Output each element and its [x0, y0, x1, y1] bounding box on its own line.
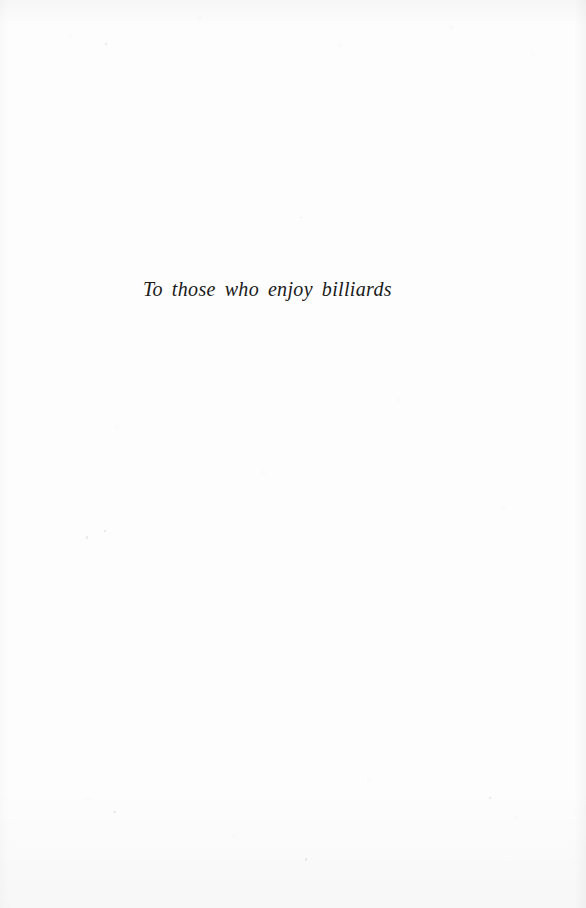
- scan-speck: [489, 797, 491, 799]
- page-edge-shade-top: [0, 0, 586, 26]
- dedication-line: To those who enjoy billiards: [143, 276, 392, 302]
- page-edge-shade-bottom: [0, 788, 586, 908]
- dedication-page: To those who enjoy billiards: [0, 0, 586, 908]
- page-edge-shade-right: [574, 0, 586, 908]
- dedication-text-block: To those who enjoy billiards: [0, 276, 535, 302]
- scan-texture-overlay: [0, 0, 586, 908]
- scan-speck: [104, 530, 106, 532]
- scan-speck: [300, 217, 302, 218]
- page-edge-shade-left: [0, 0, 10, 908]
- scan-speck: [113, 811, 116, 813]
- scan-speck: [105, 43, 107, 45]
- scan-speck: [86, 536, 88, 539]
- scan-speck: [305, 858, 307, 861]
